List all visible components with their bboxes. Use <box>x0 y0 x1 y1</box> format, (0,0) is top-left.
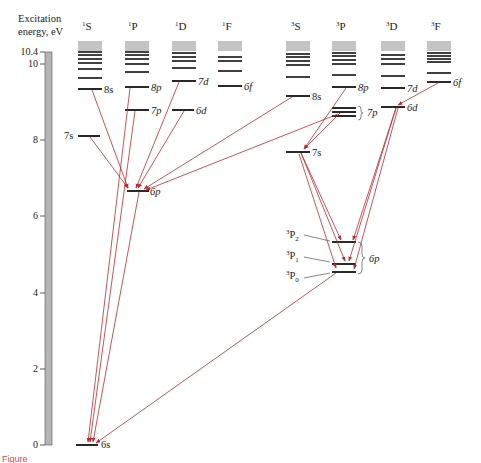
label-3P0: 3P0 <box>286 269 299 284</box>
tick-2: 2 <box>33 363 38 374</box>
transitions <box>88 82 438 443</box>
tick-10-4: 10.4 <box>21 46 39 57</box>
label-3S-8s: 8s <box>312 91 321 102</box>
figure-caption: Figure <box>2 454 28 463</box>
label-3P-8p: 8p <box>358 82 369 93</box>
tick-6: 6 <box>33 210 38 221</box>
tick-4: 4 <box>33 287 38 298</box>
tick-0: 0 <box>33 439 38 450</box>
header-3D: 3D <box>386 20 398 32</box>
column-headers: 1S 1P 1D 1F 3S 3P 3D 3F <box>82 20 441 32</box>
level-labels: 8s 7s 6s 8p 7p 6p 7d 6d 6f 8s 7s 8p 7p 7… <box>64 76 463 450</box>
label-1P-7p: 7p <box>151 105 162 116</box>
energy-axis: Excitation energy, eV 10.4 10 8 6 4 2 0 <box>18 13 64 450</box>
label-3P-6p: 6p <box>369 253 380 264</box>
tick-10: 10 <box>28 58 38 69</box>
label-1S-6s: 6s <box>101 439 110 450</box>
label-3P2: 3P2 <box>286 228 299 243</box>
label-3P1: 3P1 <box>286 249 299 264</box>
label-1S-7s: 7s <box>64 130 73 141</box>
label-3S-7s: 7s <box>312 147 321 158</box>
label-1S-8s: 8s <box>104 84 113 95</box>
label-1D-6d: 6d <box>196 105 207 116</box>
label-1D-7d: 7d <box>198 76 209 87</box>
axis-label-line1: Excitation <box>18 13 62 24</box>
label-3D-7d: 7d <box>407 83 418 94</box>
label-3D-6d: 6d <box>407 102 418 113</box>
axis-bar <box>45 52 52 445</box>
header-1P: 1P <box>128 20 138 32</box>
label-1F-6f: 6f <box>244 81 254 92</box>
header-3F: 3F <box>431 20 441 32</box>
header-1F: 1F <box>222 20 232 32</box>
named-levels <box>76 81 451 445</box>
tick-8: 8 <box>33 134 38 145</box>
header-3P: 3P <box>336 20 346 32</box>
continuum-bands <box>78 41 451 51</box>
axis-label-line2: energy, eV <box>18 26 64 37</box>
leaders-braces <box>304 106 365 278</box>
grotrian-diagram: Excitation energy, eV 10.4 10 8 6 4 2 0 … <box>0 0 481 463</box>
label-3F-6f: 6f <box>453 77 463 88</box>
header-3S: 3S <box>291 20 301 32</box>
label-1P-8p: 8p <box>151 82 162 93</box>
header-1S: 1S <box>82 20 92 32</box>
upper-levels <box>78 52 451 78</box>
label-3P-7p: 7p <box>367 107 378 118</box>
header-1D: 1D <box>175 20 187 32</box>
